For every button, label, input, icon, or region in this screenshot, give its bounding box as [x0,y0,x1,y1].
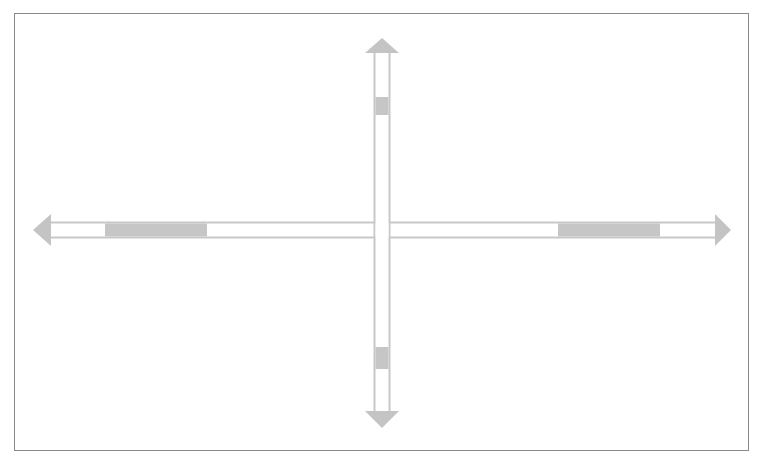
arrow-up-icon [365,38,399,53]
top-marker-segment [376,97,389,115]
arrow-left-icon [33,214,51,246]
left-marker-segment [105,224,207,237]
arrow-right-icon [715,214,731,246]
right-marker-segment [558,224,660,237]
bottom-marker-segment [376,347,389,369]
arrow-down-icon [365,411,399,428]
center-crossing [376,224,389,237]
cross-arrow-diagram [0,0,757,462]
